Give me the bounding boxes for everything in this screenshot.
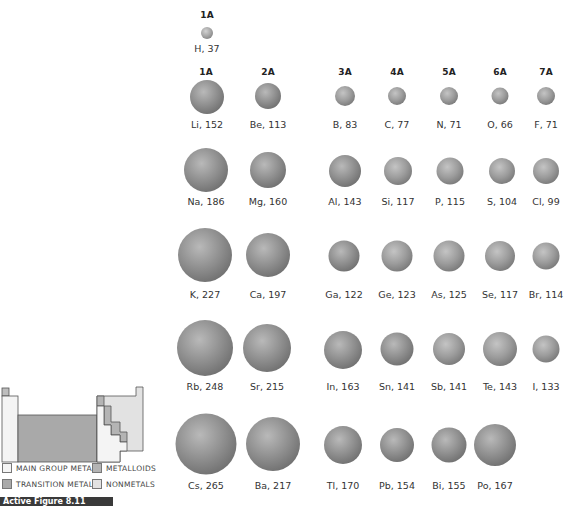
atom-sphere-si <box>384 157 412 185</box>
atom-sphere-se <box>485 241 515 271</box>
atom-label-rb: Rb, 248 <box>187 381 224 392</box>
atom-label-se: Se, 117 <box>482 289 518 300</box>
atom-label-s: S, 104 <box>487 196 517 207</box>
legend-label-metalloids: METALLOIDS <box>106 464 156 473</box>
group-header-4a: 4A <box>390 67 404 77</box>
group-header-6a: 6A <box>493 67 507 77</box>
swatch-nonmetals <box>92 479 102 489</box>
atom-label-li: Li, 152 <box>191 119 223 130</box>
legend-main-group-metals: MAIN GROUP METALS <box>2 463 102 473</box>
atom-label-al: Al, 143 <box>328 196 361 207</box>
atom-sphere-o <box>492 88 509 105</box>
atom-sphere-ga <box>329 241 360 272</box>
atom-label-na: Na, 186 <box>187 196 224 207</box>
atom-sphere-mg <box>250 152 286 188</box>
legend-label-main-group-metals: MAIN GROUP METALS <box>16 464 102 473</box>
atom-sphere-ba <box>246 417 300 471</box>
atom-label-pb: Pb, 154 <box>379 480 415 491</box>
atom-label-po: Po, 167 <box>477 480 512 491</box>
group-header-5a: 5A <box>442 67 456 77</box>
atom-label-i: I, 133 <box>533 381 560 392</box>
legend-label-nonmetals: NONMETALS <box>106 480 155 489</box>
atom-label-c: C, 77 <box>385 119 410 130</box>
atom-sphere-i <box>533 336 560 363</box>
atom-label-bi: Bi, 155 <box>432 480 465 491</box>
atom-label-cs: Cs, 265 <box>188 480 224 491</box>
atom-label-sr: Sr, 215 <box>250 381 284 392</box>
atom-sphere-sb <box>433 333 465 365</box>
atom-sphere-n <box>440 87 458 105</box>
group-header-7a: 7A <box>539 67 553 77</box>
atom-label-in: In, 163 <box>327 381 360 392</box>
legend-label-transition-metals: TRANSITION METALS <box>16 480 98 489</box>
atom-label-ca: Ca, 197 <box>250 289 287 300</box>
atom-sphere-te <box>483 332 517 366</box>
atom-sphere-cs <box>176 414 237 475</box>
atom-sphere-po <box>474 424 516 466</box>
atom-sphere-na <box>184 148 228 192</box>
atom-label-be: Be, 113 <box>250 119 287 130</box>
atom-label-as: As, 125 <box>431 289 467 300</box>
atom-sphere-ge <box>382 241 413 272</box>
atom-label-h: H, 37 <box>194 43 219 54</box>
atom-label-o: O, 66 <box>487 119 513 130</box>
atom-sphere-bi <box>432 428 467 463</box>
atom-sphere-al <box>329 155 361 187</box>
group-header-h-1a: 1A <box>200 10 214 20</box>
atom-label-ga: Ga, 122 <box>325 289 362 300</box>
swatch-transition-metals <box>2 479 12 489</box>
active-figure-bar: Active Figure 8.11 <box>0 497 113 506</box>
group-header-2a: 2A <box>261 67 275 77</box>
swatch-metalloids <box>92 463 102 473</box>
atom-label-cl: Cl, 99 <box>532 196 559 207</box>
atom-sphere-li <box>190 80 224 114</box>
atom-sphere-p <box>437 158 464 185</box>
atom-label-k: K, 227 <box>190 289 220 300</box>
atom-label-sn: Sn, 141 <box>379 381 415 392</box>
legend-transition-metals: TRANSITION METALS <box>2 479 98 489</box>
atom-sphere-in <box>324 331 362 369</box>
swatch-main-group-metals <box>2 463 12 473</box>
atom-sphere-be <box>255 83 281 109</box>
mini-periodic-table <box>0 385 150 465</box>
atom-label-p: P, 115 <box>435 196 465 207</box>
atom-label-ba: Ba, 217 <box>255 480 292 491</box>
group-header-1a: 1A <box>199 67 213 77</box>
atom-sphere-sr <box>243 324 291 372</box>
atom-sphere-s <box>489 158 515 184</box>
atom-label-tl: Tl, 170 <box>327 480 360 491</box>
atom-sphere-pb <box>380 428 414 462</box>
atom-sphere-h <box>201 27 213 39</box>
atom-sphere-sn <box>381 333 414 366</box>
atom-sphere-tl <box>324 426 362 464</box>
atom-sphere-f <box>537 87 555 105</box>
atom-label-sb: Sb, 141 <box>431 381 467 392</box>
atom-sphere-rb <box>177 320 233 376</box>
atom-label-f: F, 71 <box>534 119 558 130</box>
atom-label-b: B, 83 <box>333 119 358 130</box>
legend-metalloids: METALLOIDS <box>92 463 156 473</box>
group-header-3a: 3A <box>338 67 352 77</box>
atom-label-te: Te, 143 <box>483 381 517 392</box>
atom-label-si: Si, 117 <box>382 196 415 207</box>
atom-sphere-b <box>335 86 355 106</box>
atom-sphere-ca <box>246 233 290 277</box>
atom-label-n: N, 71 <box>436 119 461 130</box>
atom-sphere-k <box>178 228 232 282</box>
atom-label-ge: Ge, 123 <box>378 289 415 300</box>
atom-sphere-br <box>533 243 560 270</box>
atom-sphere-cl <box>533 158 559 184</box>
atom-label-mg: Mg, 160 <box>249 196 287 207</box>
legend-nonmetals: NONMETALS <box>92 479 155 489</box>
atom-label-br: Br, 114 <box>529 289 564 300</box>
atom-sphere-c <box>388 87 406 105</box>
atom-sphere-as <box>434 241 465 272</box>
